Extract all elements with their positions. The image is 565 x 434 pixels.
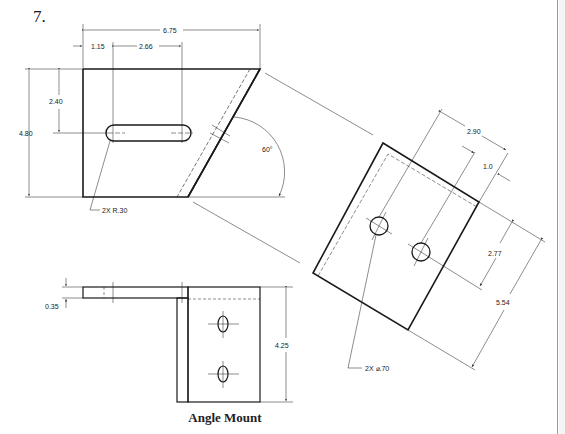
front-view (25, 24, 285, 210)
dim-overall-width: 6.75 (163, 27, 177, 34)
bottom-view (62, 278, 293, 402)
auxiliary-view-labels: 2.90 1.0 2.77 5.54 2X ⌀.70 (365, 128, 510, 372)
dim-angle: 60° (262, 146, 273, 153)
projection-lines (193, 73, 373, 263)
dim-hole-spacing: 2.90 (467, 128, 481, 135)
dim-hole-offset: 2.77 (488, 250, 502, 257)
dim-slot-length: 2.66 (139, 43, 153, 50)
dim-overall-length: 5.54 (496, 299, 510, 306)
dim-edge-offset: 1.0 (483, 163, 493, 170)
dim-leg-height: 4.25 (275, 342, 289, 349)
angle-mount-drawing: 6.75 1.15 2.66 2.40 4.80 60° 2X R.30 (0, 0, 565, 434)
dim-slot-offset: 1.15 (91, 43, 105, 50)
dim-overall-height: 4.80 (19, 130, 33, 137)
front-view-labels: 6.75 1.15 2.66 2.40 4.80 60° 2X R.30 (19, 27, 273, 214)
bottom-view-labels: 4.25 0.35 (45, 303, 289, 349)
note-hole-diameter: 2X ⌀.70 (365, 365, 389, 372)
dim-slot-height: 2.40 (49, 98, 63, 105)
page-margin (559, 0, 565, 434)
page-border (557, 0, 558, 434)
figure-caption: Angle Mount (0, 410, 450, 426)
dim-thickness: 0.35 (45, 303, 59, 310)
note-slot-radius: 2X R.30 (102, 207, 127, 214)
auxiliary-view (313, 109, 545, 370)
